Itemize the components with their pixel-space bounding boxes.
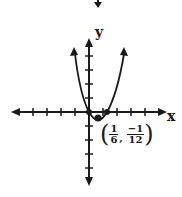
- open-paren: (: [100, 122, 109, 146]
- parabola-curve: [70, 47, 128, 120]
- vertex-y-fraction: −1 12: [127, 124, 144, 145]
- close-paren: ): [144, 122, 153, 146]
- x-axis-label: x: [167, 108, 175, 124]
- coordinate-plane: [0, 0, 182, 197]
- y-axis-label: y: [95, 24, 103, 40]
- top-arrow-icon: [94, 0, 102, 8]
- vertex-x-fraction: 1 6: [109, 124, 118, 145]
- root-point: [104, 109, 110, 115]
- origin-point: [86, 109, 92, 115]
- vertex-label: ( 1 6 , −1 12 ): [100, 122, 154, 146]
